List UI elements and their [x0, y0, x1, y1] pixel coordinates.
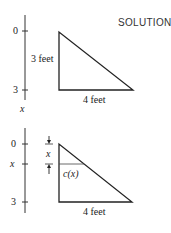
bottom-base-label: 4 feet: [83, 206, 106, 217]
top-triangle: [59, 32, 133, 90]
bottom-tick-label-3: 3: [11, 196, 16, 207]
bottom-figure: 0 x 3 x c(x) 4 feet: [9, 128, 132, 217]
top-height-label: 3 feet: [31, 53, 54, 64]
bottom-tick-label-x: x: [9, 158, 15, 169]
top-tick-label-3: 3: [13, 84, 18, 95]
arrow-up-icon: [47, 164, 51, 168]
bottom-tick-label-0: 0: [11, 138, 16, 149]
top-base-label: 4 feet: [83, 94, 106, 105]
top-axis-variable: x: [19, 103, 25, 114]
depth-x-label: x: [45, 148, 51, 159]
diagram-canvas: 0 3 x 3 feet 4 feet 0 x 3 x c(x) 4 feet: [0, 0, 171, 233]
width-cx-label: c(x): [63, 168, 79, 180]
top-tick-label-0: 0: [13, 25, 18, 36]
arrow-down-icon: [47, 140, 51, 144]
top-figure: 0 3 x 3 feet 4 feet: [13, 15, 133, 114]
